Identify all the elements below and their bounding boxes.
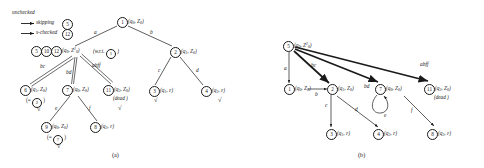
edge-e-7-to-9 (50, 96, 70, 121)
b-edge-label-b: b (315, 92, 318, 97)
a-node-6[interactable]: 6 (20, 85, 31, 96)
a-edge-label-f: f (89, 106, 91, 111)
a-edge-label-e: e (55, 106, 57, 111)
b-edge-label-c: c (325, 103, 327, 108)
legend-title: unchecked (12, 10, 35, 15)
b-node-4[interactable]: 4 (373, 129, 384, 140)
a-check-3: √ (154, 97, 158, 104)
b-node-11-label: (q2, Z0) (435, 86, 451, 93)
a-edge-label-abff: abff (92, 63, 100, 68)
b-edge-f-7-to-8 (404, 96, 434, 126)
b-node-11-dead: (dead ) (434, 95, 449, 100)
edge-d-2-to-4 (180, 57, 203, 85)
b-node-1[interactable]: 1 (284, 84, 295, 95)
b-node-4-label: (q2, ε) (384, 131, 397, 138)
edge-abff-cluster-to-11 (80, 54, 113, 84)
a-node-4[interactable]: 4 (201, 86, 212, 97)
a-wrt-note: (w.r.t. 1 ) (93, 48, 119, 59)
legend-node-schecked: 12 (62, 29, 73, 40)
b-edge-label-f: f (411, 108, 413, 113)
a-node-1[interactable]: 1 (117, 17, 128, 28)
a-check-4: √ (218, 97, 222, 104)
a-node-7-label: (q0, Z0) (73, 87, 89, 94)
b-node-1-label: (q0, Z0) (295, 86, 311, 93)
b-edge-label-d: d (355, 107, 358, 112)
b-edge-label-abff: abff (420, 62, 428, 67)
a-wrt-note-end: ) (116, 48, 119, 54)
b-node-3-label: (q1, ε) (337, 131, 350, 138)
a-node-7[interactable]: 7 (62, 85, 73, 96)
a-node-9-equiv-end: ) (63, 134, 66, 140)
a-node-11-label: (q2, Z0) (114, 87, 130, 94)
b-edge-label-e: e (384, 113, 386, 118)
b-node-7[interactable]: 7 (375, 84, 386, 95)
a-node-4-label: (q2, ε) (212, 88, 225, 95)
figure-canvas: unchecked skipping 5 s-checked 12 1 (q0,… (0, 0, 484, 168)
b-node-5-label: (q0, Z20) (294, 43, 312, 50)
a-node-6-equiv-end: ) (42, 97, 45, 103)
caption-b: (b) (358, 152, 365, 158)
a-edge-label-bd: bd (66, 70, 71, 75)
a-node-9[interactable]: 9 (41, 122, 52, 133)
a-check-6: √ (37, 106, 41, 113)
b-node-2[interactable]: 2 (327, 84, 338, 95)
legend-label-schecked: s-checked (36, 30, 57, 35)
a-wrt-note-num: 1 (106, 49, 116, 59)
a-node-8-label: (q2, ε) (101, 124, 114, 131)
a-edge-label-a: a (94, 30, 97, 35)
a-node-3-label: (q1, ε) (160, 88, 173, 95)
b-node-2-label: (q1, Z0) (338, 86, 354, 93)
a-wrt-note-pre: (w.r.t. (93, 48, 106, 54)
a-cluster-label: (q0, Z20) (62, 48, 80, 55)
b-node-8-label: (q2, ε) (438, 131, 451, 138)
a-check-11: √ (118, 105, 122, 112)
legend-node-skipping: 5 (62, 19, 73, 30)
edge-bd-cluster-to-7 (72, 57, 78, 84)
a-node-2-label: (q1, Z0) (181, 49, 197, 56)
b-node-5[interactable]: 5 (283, 41, 294, 52)
a-edge-label-d: d (196, 68, 199, 73)
legend-label-skipping: skipping (36, 20, 54, 25)
b-edge-label-bd: bd (364, 84, 369, 89)
a-edge-label-b: b (150, 30, 153, 35)
a-node-6-equiv: (= 2 ) (26, 97, 45, 108)
caption-a: (a) (112, 152, 119, 158)
a-node-9-label: (q0, Z0) (52, 124, 68, 131)
a-node-2[interactable]: 2 (170, 47, 181, 58)
a-node-8[interactable]: 8 (90, 122, 101, 133)
b-node-7-label: (q0, Z0) (386, 86, 402, 93)
a-node-6-label: (q1, Z0) (31, 87, 47, 94)
a-check-9: √ (57, 143, 61, 150)
a-node-1-label: (q0, Z0) (128, 19, 144, 26)
a-node-12[interactable]: 12 (51, 46, 62, 57)
edge-f-7-to-8 (78, 96, 97, 121)
b-edge-label-a: a (284, 66, 287, 71)
b-edge-bd-5-to-7 (295, 49, 378, 82)
b-edge-label-bc: bc (311, 63, 316, 68)
b-node-8[interactable]: 8 (427, 129, 438, 140)
b-node-3[interactable]: 3 (326, 129, 337, 140)
b-edge-e-selfloop-7 (372, 95, 387, 113)
a-node-11-dead: (dead ) (113, 96, 128, 101)
a-edge-label-c: c (158, 68, 160, 73)
a-edge-label-bc: bc (40, 64, 45, 69)
